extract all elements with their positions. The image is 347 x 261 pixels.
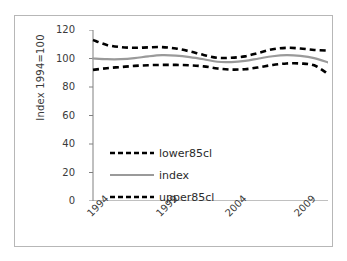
legend-swatch-lower85cl <box>110 148 154 158</box>
legend-label: lower85cl <box>159 147 212 160</box>
chart-legend: lower85clindexupper85cl <box>110 142 260 208</box>
chart-screenshot: Index 1994=100 020406080100120 199419992… <box>0 0 347 261</box>
legend-item-upper85cl: upper85cl <box>110 186 260 208</box>
x-axis-tick-labels: 1994199920042009 <box>79 201 328 251</box>
legend-swatch-upper85cl <box>110 192 154 202</box>
y-axis-title: Index 1994=100 <box>35 18 46 138</box>
series-line-lower85cl <box>93 63 328 74</box>
y-tick-label: 40 <box>49 139 75 149</box>
legend-label: upper85cl <box>159 191 214 204</box>
series-line-index <box>93 55 328 62</box>
y-tick-label: 0 <box>49 196 75 206</box>
y-tick-label: 60 <box>49 111 75 121</box>
y-tick-label: 120 <box>49 25 75 35</box>
legend-label: index <box>159 169 189 182</box>
legend-item-lower85cl: lower85cl <box>110 142 260 164</box>
y-tick-label: 100 <box>49 54 75 64</box>
y-tick-label: 20 <box>49 168 75 178</box>
chart-frame: Index 1994=100 020406080100120 199419992… <box>14 15 333 247</box>
y-tick-label: 80 <box>49 82 75 92</box>
y-axis-tick-labels: 020406080100120 <box>45 16 75 248</box>
legend-swatch-index <box>110 170 154 180</box>
legend-item-index: index <box>110 164 260 186</box>
